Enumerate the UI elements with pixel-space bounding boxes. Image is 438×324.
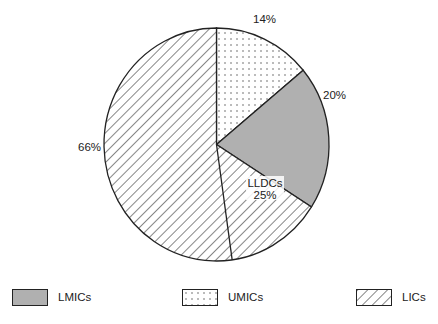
legend-label: LMICs	[58, 291, 91, 303]
dots-swatch-icon	[182, 289, 218, 306]
lics-percent-label: 66%	[78, 141, 101, 153]
lldcs-percent-label: 25%	[253, 189, 276, 201]
lmics-percent-label: 20%	[323, 89, 346, 101]
pie-chart: 14% 20% 66% LLDCs 25%	[0, 0, 438, 324]
legend-item-lmics: LMICs	[12, 288, 91, 306]
legend-item-lics: LICs	[356, 288, 426, 306]
hatch-swatch-icon	[356, 289, 392, 306]
legend-label: UMICs	[228, 291, 263, 303]
legend-label: LICs	[402, 291, 426, 303]
legend-item-umics: UMICs	[182, 288, 263, 306]
umics-percent-label: 14%	[253, 13, 276, 25]
gray-swatch-icon	[12, 289, 48, 306]
lldcs-name-label: LLDCs	[247, 177, 282, 189]
